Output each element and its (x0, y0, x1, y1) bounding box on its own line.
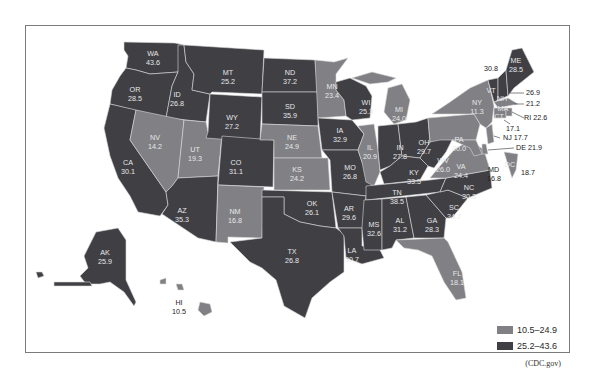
svg-text:32.6: 32.6 (367, 229, 381, 238)
svg-text:26.9: 26.9 (526, 88, 540, 97)
svg-text:KY: KY (409, 168, 419, 177)
svg-text:26.8: 26.8 (343, 172, 357, 181)
svg-text:PA: PA (454, 135, 463, 144)
svg-text:24.9: 24.9 (285, 142, 299, 151)
svg-text:CA: CA (123, 158, 133, 167)
svg-text:27.2: 27.2 (225, 122, 239, 131)
svg-text:OK: OK (307, 199, 318, 208)
svg-text:FL: FL (453, 269, 461, 278)
svg-text:MT: MT (223, 68, 234, 77)
svg-text:VA: VA (456, 162, 465, 171)
legend-label-low: 10.5–24.9 (517, 325, 557, 335)
state-nj[interactable] (486, 124, 494, 144)
state-hi[interactable] (198, 302, 212, 316)
svg-text:DC: DC (505, 160, 515, 169)
svg-text:24.0: 24.0 (392, 114, 406, 123)
svg-text:17.1: 17.1 (506, 124, 520, 133)
legend-swatch-light (497, 326, 513, 334)
legend-item-high: 25.2–43.6 (497, 338, 557, 354)
svg-text:25.2: 25.2 (221, 77, 235, 86)
svg-text:35.3: 35.3 (175, 215, 189, 224)
state-de[interactable] (482, 144, 488, 154)
state-ak[interactable] (80, 228, 136, 306)
svg-text:11.3: 11.3 (470, 107, 483, 116)
svg-text:26.8: 26.8 (170, 99, 184, 108)
svg-text:HI: HI (175, 298, 182, 307)
svg-text:24.4: 24.4 (454, 171, 468, 180)
svg-text:25.9: 25.9 (98, 257, 112, 266)
svg-text:23.4: 23.4 (325, 91, 339, 100)
svg-text:NM: NM (229, 207, 240, 216)
svg-text:10.5: 10.5 (172, 307, 186, 316)
svg-text:28.3: 28.3 (425, 225, 439, 234)
svg-text:37.2: 37.2 (283, 77, 297, 86)
svg-text:29.6: 29.6 (342, 213, 356, 222)
svg-text:SC: SC (449, 203, 459, 212)
legend-item-low: 10.5–24.9 (497, 322, 557, 338)
svg-text:ME: ME (511, 56, 522, 65)
alaska-chain (54, 282, 92, 286)
svg-text:AL: AL (396, 216, 405, 225)
source-credit: (CDC.gov) (525, 359, 561, 368)
svg-text:SD: SD (285, 102, 295, 111)
svg-text:IA: IA (337, 126, 344, 135)
svg-text:AK: AK (100, 248, 110, 257)
svg-text:32.9: 32.9 (333, 135, 347, 144)
svg-text:43.6: 43.6 (146, 58, 160, 67)
svg-text:38.5: 38.5 (390, 197, 404, 206)
svg-text:30.1: 30.1 (121, 167, 135, 176)
state-co[interactable] (218, 136, 274, 187)
svg-text:AZ: AZ (177, 206, 187, 215)
svg-text:33.5: 33.5 (407, 177, 421, 186)
svg-text:20.0: 20.0 (452, 144, 466, 153)
hawaii-islands-2 (160, 278, 166, 284)
svg-text:ID: ID (173, 90, 180, 99)
svg-text:21.2: 21.2 (526, 99, 540, 108)
svg-text:MO: MO (344, 163, 356, 172)
alaska-islands (36, 272, 44, 278)
svg-text:35.9: 35.9 (283, 111, 297, 120)
svg-text:34.7: 34.7 (447, 212, 461, 221)
legend-swatch-dark (497, 342, 513, 350)
svg-text:31.2: 31.2 (393, 225, 407, 234)
svg-text:19.3: 19.3 (188, 154, 202, 163)
svg-text:30.8: 30.8 (484, 64, 498, 73)
svg-text:NJ 17.7: NJ 17.7 (503, 133, 528, 142)
svg-text:26.0: 26.0 (436, 165, 450, 174)
svg-text:KS: KS (292, 165, 302, 174)
svg-text:29.7: 29.7 (417, 147, 431, 156)
hawaii-islands (176, 284, 184, 290)
svg-text:30.7: 30.7 (345, 255, 359, 264)
svg-text:27.8: 27.8 (393, 152, 407, 161)
svg-text:OH: OH (419, 138, 430, 147)
svg-text:WA: WA (147, 49, 159, 58)
svg-text:20.9: 20.9 (363, 152, 377, 161)
svg-text:UT: UT (190, 145, 200, 154)
svg-text:CO: CO (231, 158, 242, 167)
svg-text:28.5: 28.5 (128, 94, 142, 103)
svg-text:TN: TN (392, 188, 402, 197)
svg-text:DE 21.9: DE 21.9 (516, 143, 542, 152)
svg-text:NE: NE (287, 133, 297, 142)
svg-text:MN: MN (326, 82, 337, 91)
svg-text:31.1: 31.1 (229, 167, 243, 176)
svg-text:14.2: 14.2 (148, 142, 162, 151)
svg-text:26.8: 26.8 (285, 256, 299, 265)
svg-text:16.8: 16.8 (228, 216, 242, 225)
svg-text:ND: ND (285, 68, 295, 77)
svg-text:NY: NY (472, 98, 482, 107)
svg-text:25.3: 25.3 (359, 107, 373, 116)
svg-text:CT: CT (494, 112, 504, 121)
svg-text:24.2: 24.2 (290, 174, 304, 183)
svg-text:IN: IN (396, 143, 403, 152)
svg-text:WI: WI (362, 98, 371, 107)
svg-text:VT: VT (486, 86, 496, 95)
svg-text:NV: NV (150, 133, 160, 142)
svg-text:WV: WV (437, 156, 449, 165)
svg-text:WY: WY (226, 113, 238, 122)
svg-text:MD: MD (488, 165, 499, 174)
svg-text:OR: OR (130, 85, 141, 94)
svg-text:28.5: 28.5 (509, 65, 523, 74)
svg-text:NH: NH (497, 94, 507, 103)
svg-text:TX: TX (287, 247, 296, 256)
